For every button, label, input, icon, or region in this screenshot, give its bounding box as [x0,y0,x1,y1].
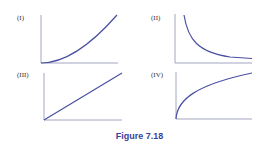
figure-plots [0,0,279,146]
plot-panel-iv [176,72,252,119]
curve-inverse [184,15,252,59]
curve-sqrt [176,73,252,119]
plot-panel-i [41,15,118,63]
curve-linear [44,73,122,120]
plot-panel-ii [175,14,252,63]
plot-panel-iii [44,73,122,120]
figure-caption: Figure 7.18 [0,131,279,141]
curve-quadratic [41,15,117,63]
